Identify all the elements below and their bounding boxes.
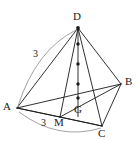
apex-point-D [76, 26, 80, 30]
edge-MB [60, 84, 121, 117]
edge-MC [60, 117, 102, 126]
vertex-label-B: B [125, 76, 132, 87]
vertex-label-A: A [3, 101, 11, 112]
measure-label-AD: 3 [33, 49, 38, 59]
tick-point-3 [76, 82, 79, 85]
tick-point-2 [76, 62, 79, 65]
measure-label-AC: 3 [41, 118, 46, 128]
edge-BC [102, 84, 121, 126]
centroid-point-G [76, 96, 79, 99]
vertex-label-C: C [98, 128, 105, 139]
geometry-figure: D A B C M G 3 3 [0, 0, 140, 142]
vertex-label-D: D [73, 11, 81, 22]
figure-canvas [0, 0, 140, 142]
vertex-label-M: M [54, 117, 64, 128]
tick-point-1 [76, 42, 79, 45]
vertex-label-G: G [74, 104, 82, 115]
edge-group [17, 28, 121, 126]
